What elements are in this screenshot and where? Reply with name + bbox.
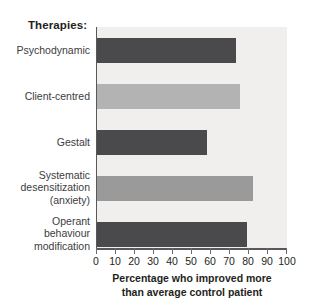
- bar-chart: Therapies: Psychodynamic Client-centred …: [0, 0, 310, 305]
- category-label-client-centred: Client-centred: [0, 90, 90, 102]
- category-label-gestalt: Gestalt: [0, 136, 90, 148]
- x-axis-title: Percentage who improved more than averag…: [78, 272, 306, 299]
- x-axis-tick: [153, 248, 154, 254]
- x-axis-tick: [115, 248, 116, 254]
- x-axis-tick: [267, 248, 268, 254]
- x-axis-tick: [210, 248, 211, 254]
- x-axis-title-line2: than average control patient: [78, 286, 306, 300]
- x-axis-tick: [248, 248, 249, 254]
- x-axis-tick: [134, 248, 135, 254]
- category-label-operant-behaviour-modification: Operant behaviour modification: [0, 215, 90, 252]
- category-label-psychodynamic: Psychodynamic: [0, 44, 90, 56]
- x-axis-tick-label: 100: [275, 255, 299, 267]
- x-axis-title-line1: Percentage who improved more: [78, 272, 306, 286]
- x-axis-tick: [191, 248, 192, 254]
- category-label-systematic-desensitization: Systematic desensitization (anxiety): [0, 169, 90, 206]
- x-axis-tick: [96, 248, 97, 254]
- x-axis-tick: [229, 248, 230, 254]
- x-axis-tick: [286, 248, 287, 254]
- x-axis-tick: [172, 248, 173, 254]
